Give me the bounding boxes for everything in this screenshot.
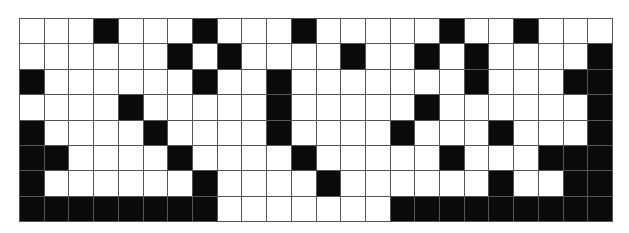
filled-cell[interactable]	[218, 44, 242, 68]
empty-cell[interactable]	[366, 197, 390, 221]
empty-cell[interactable]	[317, 146, 341, 170]
empty-cell[interactable]	[94, 95, 118, 119]
filled-cell[interactable]	[20, 121, 44, 145]
filled-cell[interactable]	[267, 121, 291, 145]
empty-cell[interactable]	[292, 95, 316, 119]
empty-cell[interactable]	[193, 44, 217, 68]
empty-cell[interactable]	[218, 197, 242, 221]
empty-cell[interactable]	[465, 121, 489, 145]
empty-cell[interactable]	[144, 70, 168, 94]
filled-cell[interactable]	[391, 121, 415, 145]
filled-cell[interactable]	[489, 171, 513, 195]
empty-cell[interactable]	[242, 121, 266, 145]
empty-cell[interactable]	[366, 70, 390, 94]
filled-cell[interactable]	[588, 44, 612, 68]
empty-cell[interactable]	[341, 197, 365, 221]
empty-cell[interactable]	[415, 121, 439, 145]
filled-cell[interactable]	[564, 70, 588, 94]
empty-cell[interactable]	[69, 146, 93, 170]
empty-cell[interactable]	[415, 19, 439, 43]
filled-cell[interactable]	[292, 146, 316, 170]
filled-cell[interactable]	[94, 19, 118, 43]
empty-cell[interactable]	[218, 121, 242, 145]
empty-cell[interactable]	[144, 95, 168, 119]
filled-cell[interactable]	[341, 44, 365, 68]
empty-cell[interactable]	[292, 70, 316, 94]
empty-cell[interactable]	[168, 19, 192, 43]
filled-cell[interactable]	[20, 146, 44, 170]
empty-cell[interactable]	[69, 70, 93, 94]
filled-cell[interactable]	[168, 146, 192, 170]
empty-cell[interactable]	[391, 19, 415, 43]
empty-cell[interactable]	[144, 171, 168, 195]
filled-cell[interactable]	[119, 95, 143, 119]
empty-cell[interactable]	[514, 44, 538, 68]
empty-cell[interactable]	[341, 70, 365, 94]
empty-cell[interactable]	[267, 171, 291, 195]
empty-cell[interactable]	[415, 70, 439, 94]
filled-cell[interactable]	[440, 197, 464, 221]
empty-cell[interactable]	[465, 95, 489, 119]
filled-cell[interactable]	[193, 171, 217, 195]
filled-cell[interactable]	[119, 197, 143, 221]
empty-cell[interactable]	[292, 197, 316, 221]
empty-cell[interactable]	[588, 19, 612, 43]
empty-cell[interactable]	[317, 70, 341, 94]
empty-cell[interactable]	[267, 19, 291, 43]
empty-cell[interactable]	[242, 171, 266, 195]
empty-cell[interactable]	[317, 19, 341, 43]
filled-cell[interactable]	[144, 197, 168, 221]
filled-cell[interactable]	[415, 95, 439, 119]
empty-cell[interactable]	[465, 171, 489, 195]
empty-cell[interactable]	[514, 171, 538, 195]
filled-cell[interactable]	[564, 146, 588, 170]
empty-cell[interactable]	[119, 146, 143, 170]
empty-cell[interactable]	[366, 44, 390, 68]
filled-cell[interactable]	[514, 19, 538, 43]
filled-cell[interactable]	[415, 197, 439, 221]
empty-cell[interactable]	[465, 146, 489, 170]
filled-cell[interactable]	[588, 197, 612, 221]
empty-cell[interactable]	[69, 44, 93, 68]
empty-cell[interactable]	[564, 95, 588, 119]
empty-cell[interactable]	[218, 171, 242, 195]
filled-cell[interactable]	[69, 197, 93, 221]
empty-cell[interactable]	[415, 146, 439, 170]
filled-cell[interactable]	[193, 19, 217, 43]
filled-cell[interactable]	[415, 44, 439, 68]
empty-cell[interactable]	[366, 146, 390, 170]
empty-cell[interactable]	[69, 121, 93, 145]
empty-cell[interactable]	[292, 171, 316, 195]
filled-cell[interactable]	[391, 197, 415, 221]
filled-cell[interactable]	[168, 197, 192, 221]
empty-cell[interactable]	[366, 121, 390, 145]
empty-cell[interactable]	[514, 95, 538, 119]
empty-cell[interactable]	[539, 70, 563, 94]
filled-cell[interactable]	[588, 95, 612, 119]
empty-cell[interactable]	[341, 146, 365, 170]
filled-cell[interactable]	[465, 70, 489, 94]
empty-cell[interactable]	[144, 19, 168, 43]
empty-cell[interactable]	[564, 19, 588, 43]
empty-cell[interactable]	[144, 146, 168, 170]
filled-cell[interactable]	[20, 70, 44, 94]
filled-cell[interactable]	[489, 121, 513, 145]
empty-cell[interactable]	[69, 171, 93, 195]
empty-cell[interactable]	[539, 19, 563, 43]
empty-cell[interactable]	[193, 146, 217, 170]
empty-cell[interactable]	[20, 19, 44, 43]
empty-cell[interactable]	[69, 95, 93, 119]
filled-cell[interactable]	[588, 70, 612, 94]
empty-cell[interactable]	[267, 146, 291, 170]
empty-cell[interactable]	[168, 70, 192, 94]
empty-cell[interactable]	[539, 121, 563, 145]
empty-cell[interactable]	[489, 95, 513, 119]
empty-cell[interactable]	[69, 19, 93, 43]
empty-cell[interactable]	[514, 70, 538, 94]
empty-cell[interactable]	[94, 171, 118, 195]
empty-cell[interactable]	[465, 19, 489, 43]
filled-cell[interactable]	[564, 197, 588, 221]
empty-cell[interactable]	[292, 121, 316, 145]
filled-cell[interactable]	[588, 171, 612, 195]
empty-cell[interactable]	[94, 70, 118, 94]
